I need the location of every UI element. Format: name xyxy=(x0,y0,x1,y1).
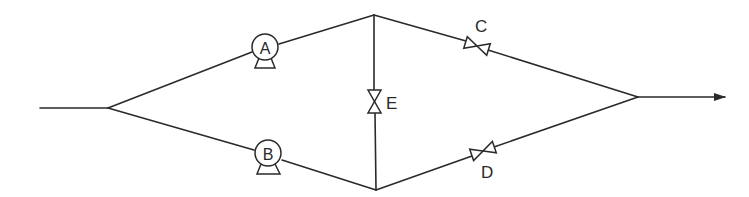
pump-a: A xyxy=(252,34,278,68)
valve-e: E xyxy=(368,90,397,113)
valve-d-label: D xyxy=(481,163,493,182)
pipe-pump-b-to-bottom-junction xyxy=(282,160,376,190)
piping-diagram: A B E C D xyxy=(0,0,749,197)
pipe-top-junction-to-valve-c xyxy=(374,15,466,41)
pipe-valve-d-to-merge xyxy=(494,97,638,147)
gate-valve-icon xyxy=(368,102,381,114)
valve-e-label: E xyxy=(386,94,397,113)
valve-d xyxy=(470,141,497,160)
pipe-cross-lower xyxy=(375,113,376,190)
gate-valve-icon xyxy=(481,141,496,156)
pump-b: B xyxy=(255,140,281,174)
pump-b-label: B xyxy=(263,146,274,163)
pipe-pump-a-to-top-junction xyxy=(279,15,374,44)
gate-valve-icon xyxy=(368,90,381,102)
gate-valve-icon xyxy=(464,37,479,52)
gate-valve-icon xyxy=(470,145,485,160)
pump-a-label: A xyxy=(260,40,271,57)
pipe-bottom-junction-to-valve-d xyxy=(376,156,472,190)
pipe-split-to-pump-a xyxy=(108,52,252,108)
valve-c xyxy=(464,37,490,55)
pipe-valve-c-to-merge xyxy=(488,50,638,97)
pipe-split-to-pump-b xyxy=(108,108,254,150)
valve-c-label: C xyxy=(475,17,487,36)
gate-valve-icon xyxy=(475,40,490,55)
